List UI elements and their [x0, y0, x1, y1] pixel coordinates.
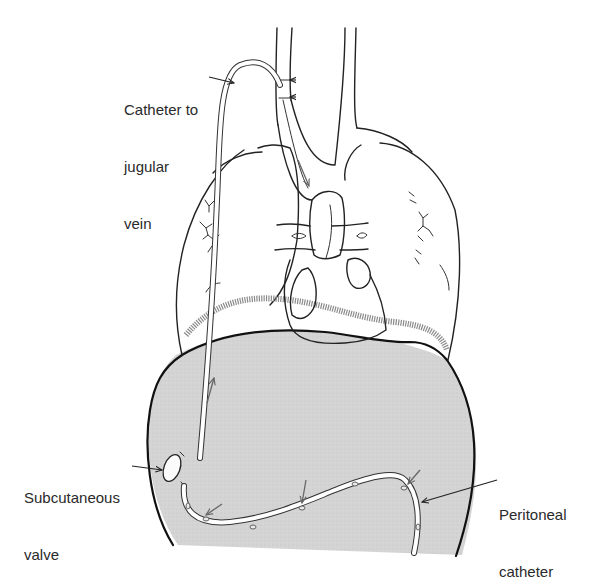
right-hilum-vessel — [332, 223, 368, 250]
label-subcutaneous-valve: Subcutaneous valve — [24, 450, 120, 583]
label-catheter-to-jugular-vein: Catheter to jugular vein — [124, 62, 198, 252]
label-line: vein — [124, 214, 198, 233]
right-lung-medial — [345, 145, 361, 180]
heart — [284, 191, 386, 343]
right-bronchi — [409, 192, 433, 264]
label-line: Subcutaneous — [24, 488, 120, 507]
left-atrium — [347, 258, 370, 288]
label-line: valve — [24, 545, 120, 564]
label-line: jugular — [124, 157, 198, 176]
label-line: catheter — [499, 562, 567, 581]
label-peritoneal-catheter: Peritoneal catheter — [499, 467, 567, 583]
side-hole — [203, 517, 209, 521]
right-atrium — [290, 268, 316, 318]
side-hole — [416, 524, 420, 530]
side-hole — [299, 506, 305, 510]
svc-right-wall — [291, 28, 345, 165]
left-hilum-mark — [292, 233, 306, 238]
side-hole — [352, 482, 358, 486]
abdomen-fill — [148, 331, 476, 555]
label-line: Catheter to — [124, 100, 198, 119]
jugular-vein-right-wall — [290, 28, 292, 100]
side-hole — [401, 486, 407, 490]
carotid-wall — [355, 28, 357, 128]
aorta-inner — [326, 205, 332, 258]
label-line: Peritoneal — [499, 505, 567, 524]
side-hole — [186, 503, 190, 509]
flow-arrow-vein — [298, 160, 309, 186]
right-hilum-mark — [357, 233, 367, 238]
side-hole — [250, 525, 256, 529]
ascending-aorta — [310, 191, 345, 258]
left-hilum-vessel — [275, 224, 315, 250]
right-lung-fissure — [440, 265, 449, 290]
abdomen — [148, 330, 477, 556]
